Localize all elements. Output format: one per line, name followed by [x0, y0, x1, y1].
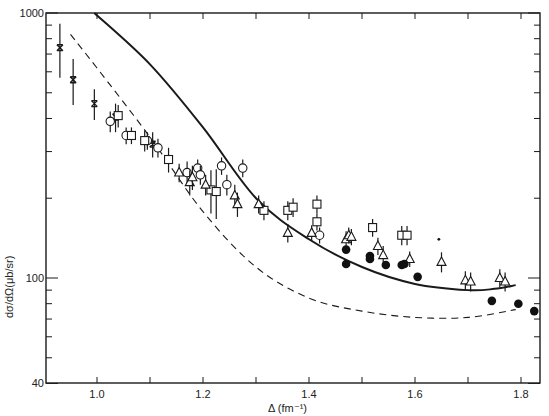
- data-point-open-squares: [313, 195, 321, 213]
- x-tick-label: 1.8: [513, 388, 528, 400]
- data-point-open-squares: [127, 127, 135, 144]
- axis-labels: Δ (fm⁻¹) dσ/dΩ(μb/sr): [3, 256, 307, 414]
- data-point-open-triangles: [373, 238, 382, 255]
- open-circle-marker: [223, 180, 231, 188]
- filled-circle-marker: [530, 307, 539, 316]
- cross-section-chart: 1.01.21.41.61.8100010040 Δ (fm⁻¹) dσ/dΩ(…: [0, 0, 549, 416]
- data-point-filled-circles: [400, 260, 409, 269]
- open-triangle-marker: [437, 257, 446, 266]
- data-point-crosses: [57, 24, 63, 78]
- x-tick-label: 1.4: [301, 388, 316, 400]
- x-tick-label: 1.2: [195, 388, 210, 400]
- open-square-marker: [212, 188, 220, 196]
- data-point-filled-circles: [382, 261, 391, 270]
- data-point-open-circles: [217, 157, 225, 174]
- open-square-marker: [165, 156, 173, 164]
- open-square-marker: [127, 131, 135, 139]
- open-circle-marker: [239, 164, 247, 172]
- filled-circle-marker: [342, 245, 351, 254]
- open-triangle-marker: [373, 241, 382, 250]
- data-points: [57, 24, 539, 316]
- filled-circle-marker: [488, 297, 497, 306]
- data-point-open-triangles: [437, 252, 446, 272]
- data-point-open-squares: [403, 226, 411, 245]
- y-tick-label: 40: [32, 377, 44, 389]
- open-circle-marker: [217, 162, 225, 170]
- data-point-filled-circles: [514, 299, 523, 308]
- data-point-crosses: [70, 59, 76, 105]
- open-triangle-marker: [175, 168, 184, 177]
- open-square-marker: [403, 231, 411, 239]
- data-point-filled-circles: [488, 297, 497, 306]
- data-point-filled-circles: [366, 255, 375, 264]
- open-triangle-marker: [379, 250, 388, 259]
- open-triangle-marker: [283, 228, 292, 237]
- data-point-filled-circles: [342, 245, 351, 254]
- open-square-marker: [141, 137, 149, 145]
- data-point-open-triangles: [175, 164, 184, 182]
- filled-circle-marker: [366, 255, 375, 264]
- x-tick-label: 1.0: [89, 388, 104, 400]
- open-square-marker: [313, 200, 321, 208]
- open-square-marker: [289, 203, 297, 211]
- y-tick-label: 1000: [20, 7, 44, 19]
- data-point-open-circles: [239, 160, 247, 178]
- data-point-crosses: [91, 89, 97, 120]
- axis-ticks: 1.01.21.41.61.8100010040: [20, 7, 540, 400]
- dashed-curve: [71, 34, 516, 318]
- open-circle-marker: [196, 171, 204, 179]
- x-axis-title: Δ (fm⁻¹): [268, 402, 307, 414]
- small-dot-annotation: [437, 238, 440, 241]
- data-point-open-squares: [165, 148, 173, 173]
- model-curves: [71, 13, 516, 318]
- open-triangle-marker: [201, 180, 210, 189]
- filled-circle-marker: [382, 261, 391, 270]
- open-circle-marker: [315, 231, 323, 239]
- data-point-open-triangles: [466, 272, 475, 291]
- y-tick-label: 100: [26, 272, 44, 284]
- open-square-marker: [369, 224, 377, 232]
- data-point-filled-circles: [413, 273, 422, 282]
- open-square-marker: [114, 112, 122, 120]
- open-circle-marker: [106, 117, 114, 125]
- open-circle-marker: [154, 144, 162, 152]
- plot-border: [46, 13, 540, 383]
- filled-circle-marker: [413, 273, 422, 282]
- data-point-filled-circles: [342, 260, 351, 269]
- x-tick-label: 1.6: [407, 388, 422, 400]
- y-axis-title: dσ/dΩ(μb/sr): [3, 256, 15, 318]
- filled-circle-marker: [400, 260, 409, 269]
- data-point-open-squares: [369, 219, 377, 237]
- filled-circle-marker: [514, 299, 523, 308]
- data-point-open-squares: [212, 169, 220, 219]
- plot-frame: [46, 13, 540, 383]
- filled-circle-marker: [342, 260, 351, 269]
- open-square-marker: [313, 218, 321, 226]
- data-point-filled-circles: [530, 307, 539, 316]
- open-triangle-marker: [307, 228, 316, 237]
- data-point-open-circles: [223, 175, 231, 196]
